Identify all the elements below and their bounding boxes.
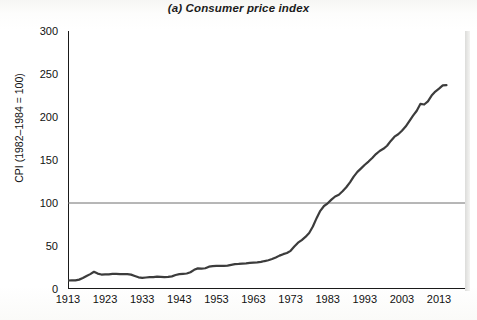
x-tick-label-2013: 2013 [419, 293, 459, 306]
x-tick-label-1963: 1963 [234, 293, 274, 306]
page-edge-shadow [465, 31, 470, 291]
x-tick-label-1953: 1953 [196, 293, 236, 306]
figure-panel: (a) Consumer price index CPI (1982–1984 … [0, 0, 477, 320]
x-tick-label-1913: 1913 [48, 293, 88, 306]
y-axis-title: CPI (1982–1984 = 100) [13, 33, 25, 223]
chart-title: (a) Consumer price index [0, 2, 477, 14]
plot-area [68, 31, 465, 289]
x-tick-label-1993: 1993 [345, 293, 385, 306]
axis-ticks [68, 31, 439, 289]
x-tick-label-1973: 1973 [271, 293, 311, 306]
y-tick-label-150: 150 [28, 155, 58, 166]
y-tick-label-300: 300 [28, 26, 58, 37]
x-tick-label-1933: 1933 [122, 293, 162, 306]
x-axis-tick-labels: 1913192319331943195319631973198319932003… [0, 293, 477, 313]
y-tick-label-250: 250 [28, 69, 58, 80]
y-tick-label-100: 100 [28, 198, 58, 209]
y-tick-label-200: 200 [28, 112, 58, 123]
y-axis-tick-labels: 050100150200250300 [26, 0, 58, 320]
x-tick-label-1983: 1983 [308, 293, 348, 306]
cpi-line-chart [68, 31, 465, 289]
x-tick-label-1923: 1923 [85, 293, 125, 306]
x-tick-label-2003: 2003 [382, 293, 422, 306]
x-tick-label-1943: 1943 [159, 293, 199, 306]
y-tick-label-50: 50 [28, 241, 58, 252]
cpi-series-line [68, 85, 446, 280]
